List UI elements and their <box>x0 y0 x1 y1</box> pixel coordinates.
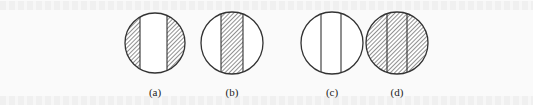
panel-a-label: (a) <box>135 86 175 98</box>
panel-c-label: (c) <box>312 86 352 98</box>
figure-diagram <box>0 0 533 105</box>
panel-d-circle <box>360 8 435 80</box>
panel-b-label: (b) <box>212 86 252 98</box>
panel-d-label: (d) <box>377 86 417 98</box>
panel-c-circle <box>295 8 370 80</box>
panel-a-circle <box>120 8 190 78</box>
panel-b-circle <box>195 8 270 80</box>
